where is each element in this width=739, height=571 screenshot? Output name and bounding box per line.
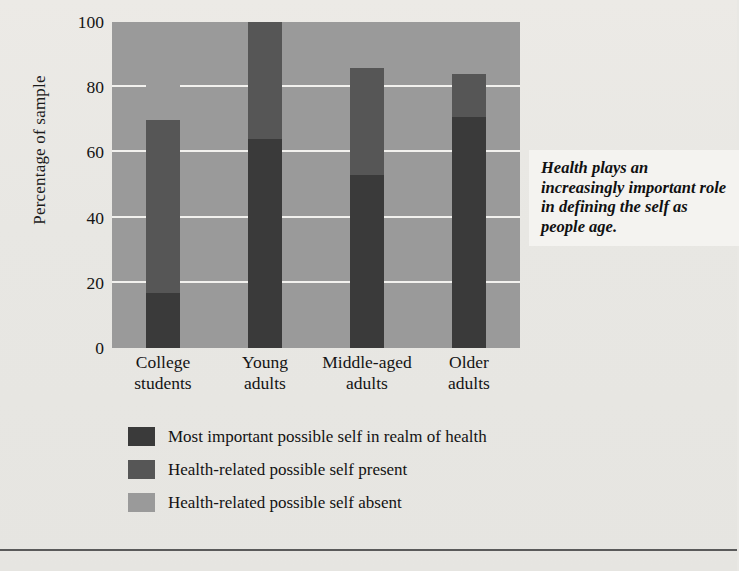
- bar-segment-1: [350, 68, 384, 176]
- bar-middle-aged-adults[interactable]: [350, 22, 384, 348]
- x-label-older-adults: Olderadults: [409, 352, 529, 394]
- bar-segment-0: [146, 293, 180, 348]
- callout-annotation: Health plays an increasingly important r…: [529, 150, 739, 246]
- legend-swatch-1: [128, 460, 155, 479]
- bottom-divider: [0, 549, 737, 551]
- bar-segment-2: [146, 22, 180, 120]
- y-tick-60: 60: [60, 142, 104, 163]
- y-tick-80: 80: [60, 77, 104, 98]
- bar-young-adults[interactable]: [248, 22, 282, 348]
- legend-swatch-2: [128, 493, 155, 512]
- legend-item-2[interactable]: Health-related possible self absent: [128, 486, 598, 519]
- bar-segment-1: [452, 74, 486, 116]
- chart-legend: Most important possible self in realm of…: [128, 420, 598, 519]
- callout-line-2: increasingly: [541, 178, 624, 197]
- bar-older-adults[interactable]: [452, 22, 486, 348]
- legend-label-2: Health-related possible self absent: [168, 493, 402, 513]
- bar-segment-0: [248, 139, 282, 348]
- y-tick-40: 40: [60, 208, 104, 229]
- y-axis-tick-labels: 100 80 60 40 20 0: [52, 0, 104, 549]
- x-label-line-1: adults: [409, 373, 529, 394]
- x-axis-tick-labels: CollegestudentsYoungadultsMiddle-agedadu…: [112, 352, 520, 412]
- legend-item-0[interactable]: Most important possible self in realm of…: [128, 420, 598, 453]
- bar-segment-1: [146, 120, 180, 293]
- callout-line-1: Health plays an: [541, 158, 648, 177]
- bar-segment-2: [350, 22, 384, 68]
- y-axis-title: Percentage of sample: [30, 35, 50, 265]
- bar-segment-2: [452, 22, 486, 74]
- legend-swatch-0: [128, 427, 155, 446]
- bar-segment-0: [350, 175, 384, 348]
- y-tick-20: 20: [60, 273, 104, 294]
- y-tick-0: 0: [60, 338, 104, 359]
- bar-college-students[interactable]: [146, 22, 180, 348]
- plot-area: [112, 22, 520, 348]
- legend-label-1: Health-related possible self present: [168, 460, 407, 480]
- x-label-line-0: Older: [409, 352, 529, 373]
- stacked-bar-chart: Percentage of sample 100 80 60 40 20 0 C…: [0, 0, 737, 549]
- callout-line-4: defining the self: [559, 197, 669, 216]
- y-tick-100: 100: [60, 12, 104, 33]
- legend-label-0: Most important possible self in realm of…: [168, 427, 487, 447]
- bar-segment-0: [452, 117, 486, 348]
- legend-item-1[interactable]: Health-related possible self present: [128, 453, 598, 486]
- bar-segment-1: [248, 22, 282, 139]
